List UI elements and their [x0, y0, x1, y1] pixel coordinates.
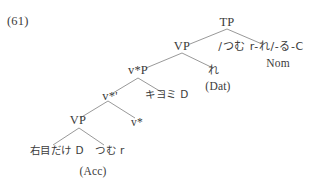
terminal-dative-pronoun: れ — [208, 65, 220, 77]
branch-vp-tsumu — [79, 128, 104, 145]
node-vstar-bar: v*' — [102, 90, 117, 103]
terminal-phonological-form: /つむ r-れ/-る-C — [218, 41, 304, 53]
node-vp-lower: VP — [70, 114, 86, 127]
node-tp: TP — [220, 16, 235, 29]
branch-vp-vstarp — [146, 53, 182, 68]
example-number: (61) — [7, 14, 29, 29]
case-label-accusative: (Acc) — [79, 165, 106, 177]
terminal-kiyomi-d: キヨミ D — [145, 89, 189, 100]
syntax-tree-figure: (61) TP VP /つむ r-れ/-る-C Nom v*P れ (Dat) … — [0, 0, 315, 195]
gloss-nominative: Nom — [266, 57, 290, 69]
case-label-dative: (Dat) — [205, 80, 230, 92]
branch-vp-migime — [53, 128, 79, 145]
terminal-migime-dake-d: 右目だけ D — [30, 145, 84, 156]
node-vstar: v* — [131, 116, 143, 128]
node-vp-upper: VP — [174, 40, 190, 53]
terminal-tsumu-r: つむ r — [95, 145, 125, 156]
node-vstar-p: v*P — [128, 64, 148, 77]
